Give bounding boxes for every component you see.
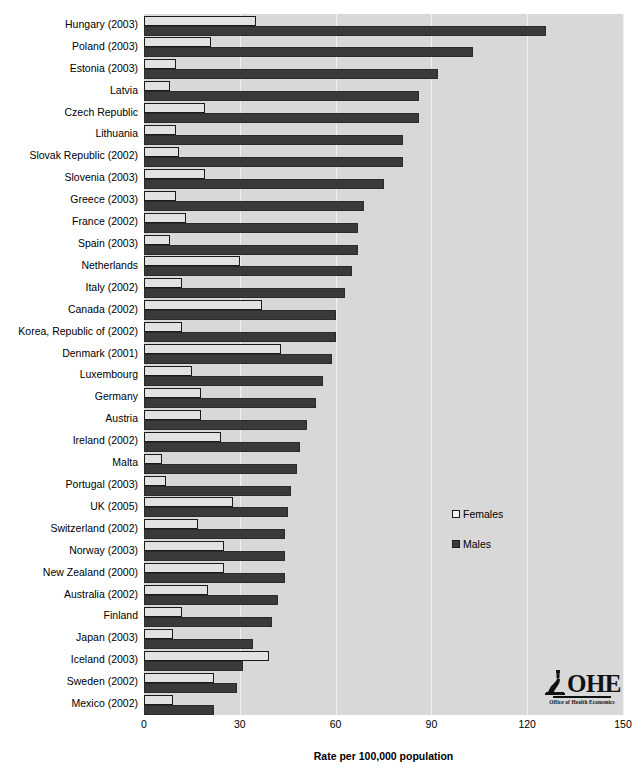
bar-female [144, 147, 179, 157]
bar-female [144, 344, 281, 354]
bar-group [144, 102, 623, 125]
bar-group [144, 474, 623, 497]
bar-group [144, 321, 623, 344]
y-axis-label: Sweden (2002) [0, 676, 138, 687]
bar-male [144, 47, 473, 57]
bar-chart: Hungary (2003)Poland (2003)Estonia (2003… [0, 0, 642, 776]
legend-item-females: Females [452, 508, 503, 520]
bar-female [144, 322, 182, 332]
legend-swatch-males-icon [452, 540, 460, 548]
bar-group [144, 605, 623, 628]
bar-female [144, 607, 182, 617]
bar-male [144, 288, 345, 298]
bar-group [144, 518, 623, 541]
bar-group [144, 211, 623, 234]
bar-male [144, 683, 237, 693]
bar-male [144, 617, 272, 627]
bar-female [144, 300, 262, 310]
y-axis-label: UK (2005) [0, 501, 138, 512]
bar-group [144, 145, 623, 168]
x-axis-tick-label: 30 [234, 718, 246, 730]
bar-male [144, 376, 323, 386]
bar-male [144, 551, 285, 561]
bar-female [144, 651, 269, 661]
bar-male [144, 135, 403, 145]
ohe-logo-text: OHE [567, 671, 621, 696]
bar-male [144, 507, 288, 517]
y-axis-label: Netherlands [0, 260, 138, 271]
bar-male [144, 529, 285, 539]
bar-group [144, 189, 623, 212]
x-axis-tick-label: 150 [614, 718, 632, 730]
bar-female [144, 366, 192, 376]
y-axis-label: Iceland (2003) [0, 654, 138, 665]
bar-group [144, 343, 623, 366]
y-axis-label: Estonia (2003) [0, 63, 138, 74]
bar-male [144, 310, 336, 320]
bar-group [144, 584, 623, 607]
bar-female [144, 16, 256, 26]
bar-female [144, 673, 214, 683]
bar-group [144, 365, 623, 388]
y-axis-label: Denmark (2001) [0, 348, 138, 359]
x-axis-tick-label: 0 [141, 718, 147, 730]
bar-male [144, 266, 352, 276]
bar-female [144, 81, 170, 91]
bar-male [144, 113, 419, 123]
bar-female [144, 37, 211, 47]
bar-female [144, 213, 186, 223]
bar-male [144, 420, 307, 430]
legend-swatch-females-icon [452, 510, 460, 518]
y-axis-label: Korea, Republic of (2002) [0, 326, 138, 337]
bar-group [144, 277, 623, 300]
y-axis-label: Switzerland (2002) [0, 523, 138, 534]
y-axis-label: Portugal (2003) [0, 479, 138, 490]
bar-group [144, 80, 623, 103]
bar-male [144, 639, 253, 649]
bar-female [144, 695, 173, 705]
bar-female [144, 169, 205, 179]
bar-male [144, 223, 358, 233]
y-axis-label: Czech Republic [0, 107, 138, 118]
bar-female [144, 541, 224, 551]
y-axis-label: Austria [0, 413, 138, 424]
bar-female [144, 410, 201, 420]
y-axis-label: Malta [0, 457, 138, 468]
y-axis-label: Hungary (2003) [0, 19, 138, 30]
bar-male [144, 179, 384, 189]
y-axis-label: Norway (2003) [0, 545, 138, 556]
bar-male [144, 442, 300, 452]
bar-group [144, 233, 623, 256]
bar-group [144, 36, 623, 59]
bar-female [144, 454, 162, 464]
y-axis-label: France (2002) [0, 216, 138, 227]
y-axis-labels: Hungary (2003)Poland (2003)Estonia (2003… [0, 14, 138, 715]
bar-male [144, 245, 358, 255]
y-axis-label: Italy (2002) [0, 282, 138, 293]
bar-male [144, 157, 403, 167]
y-axis-label: Lithuania [0, 128, 138, 139]
bar-female [144, 103, 205, 113]
bar-female [144, 476, 166, 486]
x-axis-ticks: 0306090120150 [0, 718, 642, 734]
bar-female [144, 59, 176, 69]
bar-male [144, 398, 316, 408]
legend-item-males: Males [452, 538, 503, 550]
bar-male [144, 332, 336, 342]
bar-female [144, 563, 224, 573]
plot-area [144, 14, 623, 715]
y-axis-label: Germany [0, 391, 138, 402]
bar-group [144, 58, 623, 81]
bar-group [144, 124, 623, 147]
bar-female [144, 125, 176, 135]
bar-female [144, 519, 198, 529]
bar-male [144, 69, 438, 79]
bar-male [144, 464, 297, 474]
bar-male [144, 26, 546, 36]
y-axis-label: Japan (2003) [0, 632, 138, 643]
bar-female [144, 278, 182, 288]
bar-male [144, 705, 214, 715]
bar-female [144, 432, 221, 442]
bar-female [144, 497, 233, 507]
y-axis-label: Ireland (2002) [0, 435, 138, 446]
